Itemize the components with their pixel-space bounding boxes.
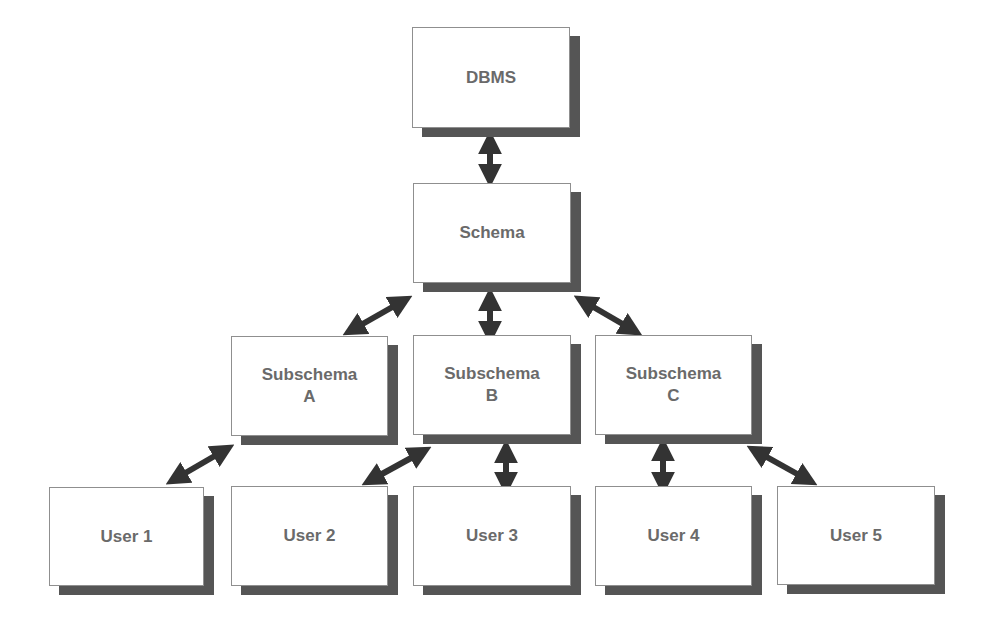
node-label: User 1 [101,526,153,548]
node-subschema-c: Subschema C [595,335,752,435]
diagram-canvas: DBMS Schema Subschema A Subschema B Subs… [0,0,989,627]
node-label: User 2 [284,525,336,547]
arrow-subschema-a-user-1 [175,450,225,479]
node-label: User 5 [830,525,882,547]
node-label: Schema [459,222,524,244]
node-label: Subschema C [626,363,721,407]
node-user-2: User 2 [231,486,388,586]
node-label: User 3 [466,525,518,547]
node-label: DBMS [466,67,516,89]
node-label: Subschema A [262,364,357,408]
node-subschema-b: Subschema B [413,335,571,435]
arrow-schema-subschema-c [583,301,633,330]
arrow-subschema-c-user-5 [756,451,808,480]
arrow-subschema-b-user-2 [371,452,422,480]
arrow-schema-subschema-a [352,301,403,330]
node-dbms: DBMS [412,27,570,128]
node-user-3: User 3 [413,486,571,586]
node-user-5: User 5 [777,486,935,585]
node-user-1: User 1 [49,487,204,586]
node-label: User 4 [648,525,700,547]
node-label: Subschema B [444,363,539,407]
node-user-4: User 4 [595,486,752,586]
node-subschema-a: Subschema A [231,336,388,436]
node-schema: Schema [413,183,571,283]
